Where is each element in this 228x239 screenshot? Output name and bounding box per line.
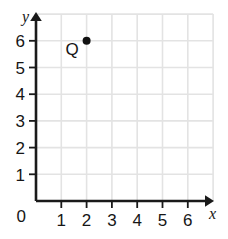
x-tick-label: 6 xyxy=(183,211,192,230)
grid-lines-vertical xyxy=(36,14,213,201)
y-axis-tick-labels: 1 2 3 4 5 6 xyxy=(16,32,25,185)
y-tick-label: 5 xyxy=(16,59,25,78)
origin-label: 0 xyxy=(17,207,26,226)
x-tick-label: 5 xyxy=(158,211,167,230)
coordinate-plane-figure: 1 2 3 4 5 6 1 2 3 4 5 6 0 x y Q xyxy=(0,0,228,239)
y-tick-label: 3 xyxy=(16,112,25,131)
x-tick-label: 4 xyxy=(132,211,141,230)
y-tick-label: 2 xyxy=(16,139,25,158)
y-tick-label: 1 xyxy=(16,166,25,185)
x-axis-label: x xyxy=(208,205,216,222)
x-tick-label: 2 xyxy=(82,211,91,230)
grid-lines-horizontal xyxy=(36,14,213,201)
y-axis-label: y xyxy=(20,8,30,26)
x-axis-tick-labels: 1 2 3 4 5 6 xyxy=(57,211,193,230)
y-tick-label: 4 xyxy=(16,85,25,104)
y-tick-label: 6 xyxy=(16,32,25,51)
point-label: Q xyxy=(65,40,78,59)
x-tick-label: 1 xyxy=(57,211,66,230)
x-tick-label: 3 xyxy=(107,211,116,230)
coordinate-plane-svg: 1 2 3 4 5 6 1 2 3 4 5 6 0 x y Q xyxy=(0,0,228,239)
point-marker xyxy=(83,37,91,45)
